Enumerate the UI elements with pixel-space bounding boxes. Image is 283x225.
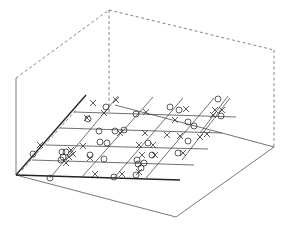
cross-marker: [90, 100, 96, 106]
circle-marker: [176, 107, 182, 113]
circle-marker: [175, 150, 181, 156]
plane-row-line: [60, 128, 222, 133]
circle-marker: [135, 161, 141, 167]
plane-edge-line: [222, 133, 274, 147]
cross-marker: [197, 134, 203, 140]
cross-marker: [152, 152, 158, 158]
left-axis: [16, 95, 86, 175]
circle-marker: [87, 152, 93, 158]
circle-marker: [103, 104, 109, 110]
cross-marker: [210, 112, 216, 118]
cross-marker: [92, 171, 98, 177]
circle-marker: [111, 174, 117, 180]
circle-marker: [185, 138, 191, 144]
plane-col-line: [146, 98, 214, 178]
circle-marker: [97, 139, 103, 145]
data-points: [30, 96, 225, 181]
circle-marker: [218, 113, 224, 119]
front-axis: [16, 175, 180, 180]
circle-marker: [149, 152, 155, 158]
back-left-edge: [16, 10, 109, 78]
cross-marker: [150, 142, 156, 148]
cross-marker: [87, 155, 93, 161]
cross-marker: [204, 131, 210, 137]
cross-marker: [117, 130, 123, 136]
back-top-edge: [109, 10, 274, 50]
cross-marker: [139, 152, 145, 158]
plane-row-line: [32, 160, 194, 165]
cross-marker: [164, 132, 170, 138]
base-front-edge: [16, 175, 176, 217]
circle-marker: [112, 128, 118, 134]
cross-marker: [119, 171, 125, 177]
plane-row-line: [46, 145, 208, 149]
cross-marker: [183, 106, 189, 112]
circle-marker: [215, 96, 221, 102]
circle-marker: [104, 140, 110, 146]
circle-marker: [101, 156, 107, 162]
base-right-edge: [176, 147, 274, 217]
circle-marker: [167, 104, 173, 110]
scatter-3d-chart: [0, 0, 283, 225]
circle-marker: [145, 140, 151, 146]
plane-col-line: [50, 96, 118, 178]
